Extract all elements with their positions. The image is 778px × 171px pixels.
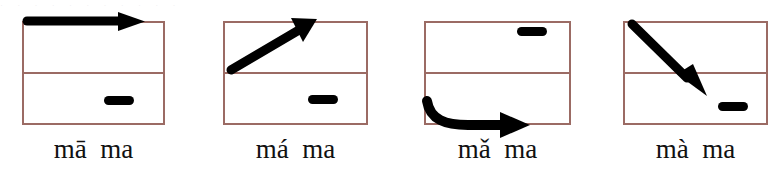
tone-box bbox=[223, 21, 368, 125]
tone-box-midline bbox=[225, 72, 366, 74]
dash-marker-icon bbox=[308, 95, 338, 104]
tone-panel-label: mà ma bbox=[623, 133, 768, 165]
tone-panel-label: má ma bbox=[223, 133, 368, 165]
tone-contour-figure: · · · · · · · · · · · mā ma má bbox=[0, 0, 778, 171]
dash-marker-icon bbox=[104, 96, 134, 105]
tone-box bbox=[424, 21, 571, 125]
tone-panel-tone4: mà ma bbox=[623, 0, 768, 171]
tone-panel-label: mǎ ma bbox=[424, 133, 571, 165]
tone-panel-tone1: mā ma bbox=[22, 0, 165, 171]
tone-panel-tone3: mǎ ma bbox=[424, 0, 571, 171]
dash-marker-icon bbox=[718, 102, 748, 111]
tone-box bbox=[22, 21, 165, 125]
tone-box-midline bbox=[426, 72, 569, 74]
dash-marker-icon bbox=[517, 27, 547, 36]
tone-box-midline bbox=[24, 72, 163, 74]
tone-panel-label: mā ma bbox=[22, 133, 165, 165]
tone-box-midline bbox=[625, 72, 766, 74]
tone-panel-tone2: má ma bbox=[223, 0, 368, 171]
